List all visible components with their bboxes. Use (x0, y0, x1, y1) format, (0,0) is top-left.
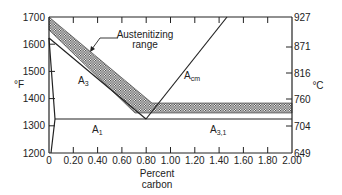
a1-label: A1 (92, 124, 103, 136)
y-tick-labels-right: 927 871 816 760 704 649 (294, 12, 311, 159)
x-label: 0.60 (112, 155, 132, 166)
arrow-head-icon (90, 46, 95, 52)
ferrite-boundary-line (49, 38, 55, 153)
x-label: 1.20 (185, 155, 205, 166)
x-tick-labels: 0 0.20 0.40 0.60 0.80 1.00 1.20 1.40 1.6… (46, 155, 302, 166)
y-right-label: 760 (294, 94, 311, 105)
x-axis-title-line1: Percent (140, 168, 175, 179)
a3-line (49, 38, 146, 119)
x-label: 0.80 (136, 155, 156, 166)
y-right-label: 816 (294, 68, 311, 79)
x-ticks-top (73, 17, 267, 23)
x-label: 1.00 (161, 155, 181, 166)
x-label: 2.00 (282, 155, 302, 166)
austenitizing-label-line2: range (132, 39, 158, 50)
y-right-axis-title: °C (312, 80, 323, 91)
y-left-label: 1500 (23, 66, 46, 77)
y-ticks-right (286, 47, 292, 126)
x-label: 1.80 (258, 155, 278, 166)
x-axis-title-line2: carbon (142, 179, 173, 190)
y-right-label: 927 (294, 12, 311, 23)
y-right-label: 871 (294, 41, 311, 52)
x-label: 1.60 (234, 155, 254, 166)
x-ticks-bottom (73, 147, 267, 153)
acm-label: Acm (184, 70, 200, 82)
a31-label: A3,1 (210, 124, 227, 136)
y-left-label: 1200 (23, 148, 46, 159)
y-left-label: 1300 (23, 120, 46, 131)
y-left-label: 1700 (23, 12, 46, 23)
a3-label: A3 (78, 75, 89, 87)
y-left-axis-title: °F (14, 79, 24, 90)
y-right-label: 704 (294, 121, 311, 132)
y-left-label: 1400 (23, 93, 46, 104)
austenitizing-pointer-diag (92, 38, 100, 49)
y-left-label: 1600 (23, 39, 46, 50)
x-label: 0.20 (64, 155, 84, 166)
x-label: 0 (46, 155, 52, 166)
y-tick-labels-left: 1700 1600 1500 1400 1300 1200 (23, 12, 46, 159)
x-label: 0.40 (88, 155, 108, 166)
x-label: 1.40 (209, 155, 229, 166)
iron-carbon-chart: 1700 1600 1500 1400 1300 1200 927 871 81… (0, 0, 342, 195)
